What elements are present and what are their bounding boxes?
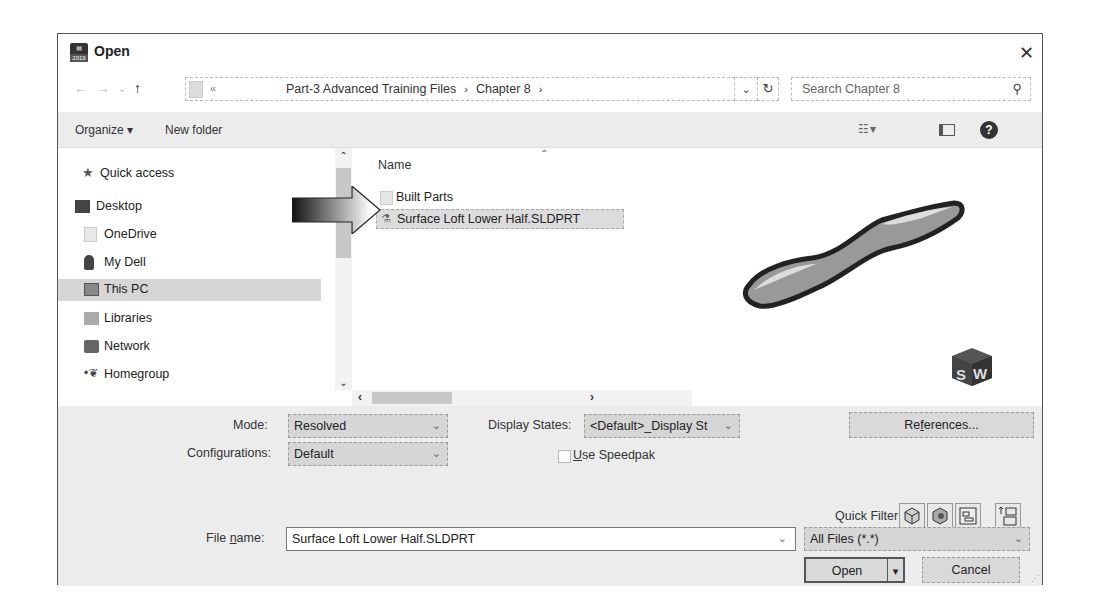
libraries-icon [84, 312, 99, 325]
mode-value: Resolved [294, 419, 346, 433]
resize-grip-icon[interactable]: ⋰ [1031, 574, 1039, 583]
svg-text:S: S [956, 366, 966, 383]
scroll-left-button[interactable]: ‹ [358, 390, 362, 404]
navigation-pane: ★ Quick access Desktop OneDrive My Dell … [58, 148, 335, 390]
filter-assemblies-icon[interactable] [927, 503, 953, 529]
file-type-select[interactable]: All Files (*.*) ⌄ [804, 527, 1030, 551]
chevron-down-icon: ⌄ [1014, 532, 1023, 545]
address-dropdown-button[interactable]: ⌄ [735, 77, 757, 101]
cancel-button[interactable]: Cancel [922, 557, 1020, 583]
navigation-bar: ← → ⌄ ↑ « Part-3 Advanced Training Files… [58, 74, 1042, 104]
filter-top-level-assemblies-icon[interactable] [995, 503, 1021, 529]
breadcrumb-separator[interactable]: › [539, 83, 543, 95]
file-list: ⌃ Name Built Parts ⚗ Surface Loft Lower … [352, 148, 692, 390]
nav-item-network[interactable]: Network [58, 336, 321, 358]
folder-icon [84, 227, 97, 242]
chevron-down-icon: ⌄ [724, 419, 733, 432]
file-list-horizontal-scrollbar[interactable]: ‹ › [352, 390, 692, 406]
nav-item-label: OneDrive [104, 227, 157, 241]
scroll-right-button[interactable]: › [590, 390, 594, 404]
close-button[interactable]: ✕ [1019, 44, 1034, 62]
preview-pane: S W [692, 148, 1042, 406]
use-speedpak-label[interactable]: Use Speedpak [573, 448, 655, 462]
chevron-down-icon[interactable]: ⌄ [778, 532, 787, 545]
change-view-button[interactable]: ☷ ▾ [858, 122, 875, 136]
open-split-dropdown[interactable]: ▾ [887, 559, 903, 583]
file-name: Surface Loft Lower Half.SLDPRT [397, 212, 580, 226]
nav-item-libraries[interactable]: Libraries [58, 308, 321, 330]
nav-item-label: Desktop [96, 199, 142, 213]
search-placeholder: Search Chapter 8 [802, 82, 900, 96]
nav-item-this-pc[interactable]: This PC [58, 279, 321, 301]
display-states-value: <Default>_Display St [590, 419, 707, 433]
chevron-down-icon: ⌄ [432, 447, 441, 460]
homegroup-icon: •❦ [84, 366, 99, 379]
svg-text:W: W [973, 365, 988, 382]
column-header-name[interactable]: Name [378, 158, 411, 172]
scroll-up-button[interactable]: ⌃ [335, 150, 352, 161]
back-button[interactable]: ← [74, 80, 88, 96]
file-name-input[interactable]: Surface Loft Lower Half.SLDPRT ⌄ [286, 527, 796, 551]
nav-item-my-dell[interactable]: My Dell [58, 252, 321, 274]
forward-button[interactable]: → [96, 80, 110, 96]
dialog-title: Open [94, 43, 130, 59]
configurations-select[interactable]: Default ⌄ [288, 442, 448, 466]
breadcrumb-separator[interactable]: › [464, 83, 468, 95]
quick-filter-label: Quick Filter: [835, 509, 902, 523]
file-row-surface-loft[interactable]: ⚗ Surface Loft Lower Half.SLDPRT [376, 209, 624, 229]
solidworks-logo-icon: S W [952, 348, 992, 386]
breadcrumb-part3[interactable]: Part-3 Advanced Training Files [286, 82, 456, 96]
open-label: Open [806, 559, 888, 583]
display-states-label: Display States: [488, 418, 571, 432]
up-button[interactable]: ↑ [134, 80, 141, 96]
sldprt-file-icon: ⚗ [381, 212, 394, 226]
star-icon: ★ [82, 165, 97, 178]
address-bar[interactable]: « Part-3 Advanced Training Files›Chapter… [185, 77, 735, 101]
open-button[interactable]: Open ▾ [804, 557, 905, 583]
file-type-value: All Files (*.*) [810, 532, 879, 546]
file-row-built-parts[interactable]: Built Parts [376, 188, 624, 208]
desktop-icon [75, 200, 90, 213]
filter-drawings-icon[interactable] [955, 503, 981, 529]
display-states-select[interactable]: <Default>_Display St ⌄ [584, 414, 740, 438]
sort-ascending-icon: ⌃ [540, 148, 548, 159]
breadcrumb-chapter8[interactable]: Chapter 8 [476, 82, 531, 96]
refresh-button[interactable]: ↻ [757, 77, 779, 101]
recent-locations-button[interactable]: ⌄ [118, 83, 126, 94]
address-overflow-button[interactable]: « [210, 82, 216, 94]
open-dialog: ▤2019 Open ✕ ← → ⌄ ↑ « Part-3 Advanced T… [57, 33, 1043, 585]
command-toolbar: Organize ▾ New folder ☷ ▾ ? [58, 112, 1042, 148]
nav-item-quick-access[interactable]: ★ Quick access [58, 163, 321, 185]
new-folder-button[interactable]: New folder [165, 123, 222, 137]
nav-pane-scrollbar[interactable]: ⌃ ⌄ [335, 148, 352, 390]
references-button[interactable]: References... [849, 412, 1034, 438]
solidworks-app-icon: ▤2019 [70, 43, 88, 61]
mode-select[interactable]: Resolved ⌄ [288, 414, 448, 438]
folder-icon [189, 81, 203, 98]
file-name-label: File name: [206, 531, 264, 545]
file-name: Built Parts [396, 190, 453, 204]
breadcrumb: Part-3 Advanced Training Files›Chapter 8… [286, 82, 550, 96]
nav-item-label: This PC [104, 282, 148, 296]
scrollbar-thumb[interactable] [372, 392, 452, 404]
organize-button[interactable]: Organize ▾ [75, 123, 133, 137]
title-bar: ▤2019 Open ✕ [58, 34, 1042, 64]
nav-item-desktop[interactable]: Desktop [58, 196, 321, 218]
user-icon [84, 255, 94, 270]
scroll-down-button[interactable]: ⌄ [335, 377, 352, 388]
nav-item-label: Libraries [104, 311, 152, 325]
help-icon[interactable]: ? [980, 121, 998, 139]
nav-item-onedrive[interactable]: OneDrive [58, 224, 321, 246]
filter-parts-icon[interactable] [899, 503, 925, 529]
callout-arrow-icon [292, 186, 382, 234]
preview-pane-toggle-icon[interactable] [939, 124, 955, 136]
nav-item-label: Homegroup [104, 367, 169, 381]
search-input[interactable]: Search Chapter 8 ⚲ [791, 77, 1031, 101]
part-preview-image [732, 188, 972, 328]
configurations-label: Configurations: [187, 446, 271, 460]
nav-item-homegroup[interactable]: •❦ Homegroup [58, 364, 321, 386]
search-icon[interactable]: ⚲ [1012, 81, 1022, 96]
mode-label: Mode: [233, 418, 268, 432]
use-speedpak-checkbox[interactable] [558, 450, 571, 463]
chevron-down-icon: ⌄ [432, 419, 441, 432]
